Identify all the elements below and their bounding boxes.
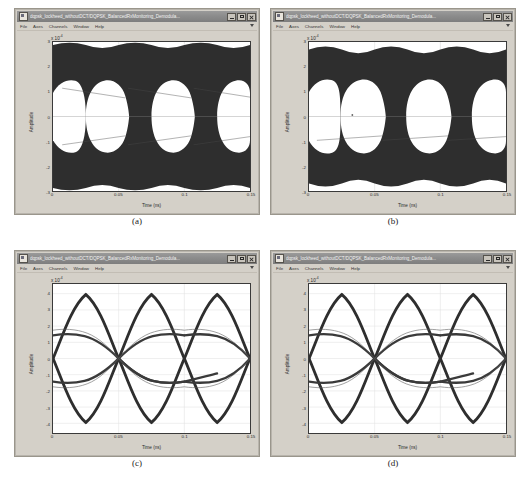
window-controls-d: [483, 255, 512, 263]
menu-item-axes[interactable]: Axes: [33, 22, 43, 31]
x-axis-ticks-b: 00.050.10.15: [308, 192, 507, 198]
menu-item-window[interactable]: Window: [73, 22, 89, 31]
window-c[interactable]: dqpsk_lockheed_withoutDCT/DQPSK_Balanced…: [14, 250, 260, 457]
close-button[interactable]: [247, 13, 256, 21]
menubar-c: File Axes Channels Window Help: [17, 264, 257, 273]
menu-item-window[interactable]: Window: [73, 264, 89, 273]
gridlines-d: [309, 284, 506, 433]
titlebar-a[interactable]: dqpsk_lockheed_withoutDCT/DQPSK_Balanced…: [17, 11, 257, 22]
y-tick-label: 2: [48, 323, 50, 328]
menu-item-help[interactable]: Help: [95, 264, 104, 273]
menubar-overflow-icon[interactable]: [506, 266, 510, 269]
y-tick-label: -1: [46, 372, 50, 377]
y-tick-label: 3: [48, 39, 50, 44]
x-tick-label: 0: [51, 434, 53, 439]
menubar-overflow-icon[interactable]: [506, 24, 510, 27]
figure-panel-grid: dqpsk_lockheed_withoutDCT/DQPSK_Balanced…: [0, 0, 529, 497]
menu-item-axes[interactable]: Axes: [289, 22, 299, 31]
window-a[interactable]: dqpsk_lockheed_withoutDCT/DQPSK_Balanced…: [14, 8, 260, 215]
minimize-button[interactable]: [483, 13, 492, 21]
y-tick-label: -3: [46, 405, 50, 410]
y-tick-label: -2: [46, 164, 50, 169]
x-tick-label: 0.15: [247, 192, 256, 197]
menu-item-file[interactable]: File: [276, 22, 283, 31]
gridlines-c: [53, 284, 250, 433]
close-button[interactable]: [247, 255, 256, 263]
x-axis-label-a: Time (ns): [52, 203, 251, 208]
y-tick-label: -4: [46, 422, 50, 427]
x-tick-label: 0.15: [503, 192, 512, 197]
minimize-button[interactable]: [483, 255, 492, 263]
menu-item-help[interactable]: Help: [351, 264, 360, 273]
caption-a: (a): [14, 216, 260, 226]
y-tick-label: -2: [302, 164, 306, 169]
x-tick-label: 0: [307, 434, 309, 439]
window-controls-c: [227, 255, 256, 263]
y-tick-label: 3: [304, 39, 306, 44]
window-title-d: dqpsk_lockheed_withoutDCT/DQPSK_Balanced…: [286, 253, 481, 264]
y-tick-label: -2: [302, 389, 306, 394]
titlebar-b[interactable]: dqpsk_lockheed_withoutDCT/DQPSK_Balanced…: [273, 11, 513, 22]
scope-icon: [19, 12, 28, 21]
window-title-b: dqpsk_lockheed_withoutDCT/DQPSK_Balanced…: [286, 11, 481, 22]
window-title-c: dqpsk_lockheed_withoutDCT/DQPSK_Balanced…: [30, 253, 225, 264]
y-tick-label: 0: [48, 356, 50, 361]
menubar-overflow-icon[interactable]: [250, 266, 254, 269]
client-area-c: x 10-4 Amplitude -4-3-2-101234: [17, 273, 257, 454]
x-tick-label: 0.05: [114, 434, 123, 439]
menubar-overflow-icon[interactable]: [250, 24, 254, 27]
close-button[interactable]: [503, 13, 512, 21]
x-axis-label-c: Time (ns): [52, 445, 251, 450]
y-tick-label: 1: [48, 340, 50, 345]
menu-item-window[interactable]: Window: [329, 264, 345, 273]
axes-b: [308, 41, 507, 192]
plot-c: x 10-4 Amplitude -4-3-2-101234: [22, 276, 253, 451]
y-tick-label: 1: [304, 89, 306, 94]
x-axis-ticks-d: 00.050.10.15: [308, 434, 507, 440]
maximize-button[interactable]: [237, 13, 246, 21]
minimize-button[interactable]: [227, 255, 236, 263]
y-tick-label: 0: [304, 114, 306, 119]
menu-item-channels[interactable]: Channels: [49, 22, 68, 31]
menubar-a: File Axes Channels Window Help: [17, 22, 257, 31]
x-tick-label: 0.15: [503, 434, 512, 439]
y-tick-label: 3: [48, 307, 50, 312]
menu-item-channels[interactable]: Channels: [305, 22, 324, 31]
caption-c: (c): [14, 458, 260, 468]
menu-item-file[interactable]: File: [20, 264, 27, 273]
window-d[interactable]: dqpsk_lockheed_withoutDCT/DQPSK_Balanced…: [270, 250, 516, 457]
y-axis-label-c: Amplitude: [29, 353, 34, 373]
menu-item-channels[interactable]: Channels: [305, 264, 324, 273]
close-button[interactable]: [503, 255, 512, 263]
window-b[interactable]: dqpsk_lockheed_withoutDCT/DQPSK_Balanced…: [270, 8, 516, 215]
maximize-button[interactable]: [493, 13, 502, 21]
y-tick-label: 0: [304, 356, 306, 361]
maximize-button[interactable]: [237, 255, 246, 263]
menu-item-axes[interactable]: Axes: [289, 264, 299, 273]
minimize-button[interactable]: [227, 13, 236, 21]
titlebar-d[interactable]: dqpsk_lockheed_withoutDCT/DQPSK_Balanced…: [273, 253, 513, 264]
panel-c: dqpsk_lockheed_withoutDCT/DQPSK_Balanced…: [14, 250, 260, 457]
y-axis-exponent-a: x 10-4: [51, 34, 63, 41]
menu-item-file[interactable]: File: [20, 22, 27, 31]
y-tick-label: -4: [302, 422, 306, 427]
window-controls-b: [483, 13, 512, 21]
menubar-d: File Axes Channels Window Help: [273, 264, 513, 273]
y-tick-label: 3: [304, 307, 306, 312]
y-tick-label: -1: [46, 139, 50, 144]
titlebar-c[interactable]: dqpsk_lockheed_withoutDCT/DQPSK_Balanced…: [17, 253, 257, 264]
axes-a: [52, 41, 251, 192]
menu-item-window[interactable]: Window: [329, 22, 345, 31]
eye-diagram-clean-d: [309, 284, 506, 433]
menu-item-channels[interactable]: Channels: [49, 264, 68, 273]
eye-diagram-noisy-a: [53, 42, 250, 191]
menu-item-help[interactable]: Help: [95, 22, 104, 31]
menu-item-file[interactable]: File: [276, 264, 283, 273]
menu-item-help[interactable]: Help: [351, 22, 360, 31]
maximize-button[interactable]: [493, 255, 502, 263]
y-axis-exponent-d: x 10-4: [307, 276, 319, 283]
x-tick-label: 0.1: [182, 192, 188, 197]
eye-diagram-clean-c: [53, 284, 250, 433]
x-tick-label: 0.05: [370, 434, 379, 439]
menu-item-axes[interactable]: Axes: [33, 264, 43, 273]
